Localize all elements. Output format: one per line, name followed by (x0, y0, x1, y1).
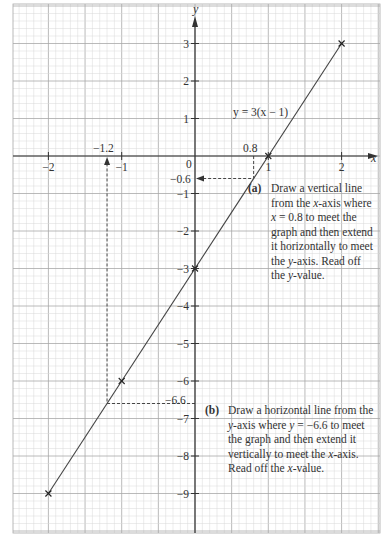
x-tick-label: 1 (265, 161, 271, 173)
y-tick-label: −3 (177, 263, 189, 275)
y-tick-label: −7 (177, 413, 189, 425)
x-tick-label: −1 (116, 161, 128, 173)
guide-b-y-label: −6.6 (165, 394, 186, 406)
equation-label: y = 3(x − 1) (233, 106, 288, 119)
x-tick-label: −2 (42, 161, 54, 173)
instruction-b: (b) Draw a horizontal line from the y-ax… (205, 403, 375, 476)
y-tick-label: −2 (177, 225, 189, 237)
y-tick-label: −4 (177, 300, 189, 312)
guide-a-y-label: −0.6 (170, 173, 191, 185)
instruction-b-text: Draw a horizontal line from the y-axis w… (228, 403, 375, 476)
x-tick-label: 2 (339, 161, 345, 173)
instruction-b-label: (b) (205, 403, 219, 418)
guide-a-x-label: 0.8 (243, 142, 258, 154)
origin-label: 0 (186, 158, 192, 170)
y-tick-label: −9 (177, 488, 189, 500)
instruction-a: (a) Draw a vertical line from the x-axis… (248, 181, 376, 283)
y-axis-label: y (192, 2, 199, 16)
y-tick-label: −8 (177, 450, 189, 462)
guide-b-x-label: −1.2 (93, 142, 114, 154)
instruction-a-text: Draw a vertical line from the x-axis whe… (271, 181, 376, 283)
y-tick-label: 3 (183, 38, 189, 50)
y-tick-label: 1 (183, 113, 189, 125)
y-tick-label: −1 (177, 188, 189, 200)
y-tick-label: −5 (177, 338, 189, 350)
y-tick-label: −6 (177, 375, 189, 387)
x-axis-label: x (370, 151, 377, 165)
instruction-a-label: (a) (248, 181, 261, 196)
y-tick-label: 2 (183, 75, 189, 87)
